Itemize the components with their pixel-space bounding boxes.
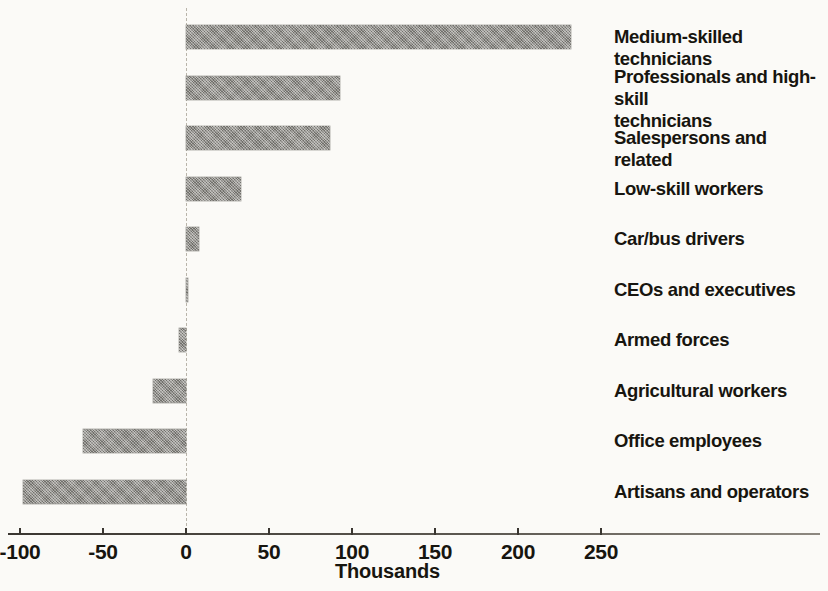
category-label: Medium-skilled technicians (614, 26, 828, 70)
x-axis-tick (268, 528, 270, 535)
bar (186, 25, 571, 49)
bar (153, 379, 186, 403)
bar (83, 429, 186, 453)
bar (186, 76, 340, 100)
x-axis-tick-label: -100 (0, 540, 40, 564)
plot-area (0, 0, 600, 533)
x-axis-tick (600, 528, 602, 535)
category-label-line: Car/bus drivers (614, 228, 828, 250)
category-label: Salespersons and related (614, 127, 828, 171)
x-axis-tick-label: 50 (258, 540, 281, 564)
x-axis-tick-label: 200 (501, 540, 535, 564)
x-axis-line (8, 533, 820, 535)
x-axis-tick-label: 0 (180, 540, 191, 564)
category-label: Low-skill workers (614, 178, 828, 200)
x-axis: -100-50050100150200250 (0, 533, 828, 535)
bar-series (0, 0, 600, 533)
x-axis-tick (351, 528, 353, 535)
x-axis-tick (102, 528, 104, 535)
category-label-line: Salespersons and related (614, 127, 828, 171)
bar-chart: -100-50050100150200250 Thousands Medium-… (0, 0, 828, 591)
category-label: CEOs and executives (614, 279, 828, 301)
category-label-line: Agricultural workers (614, 380, 828, 402)
category-labels: Medium-skilled techniciansProfessionals … (614, 0, 828, 533)
x-axis-tick-label: 250 (584, 540, 618, 564)
x-axis-tick (517, 528, 519, 535)
category-label-line: Medium-skilled technicians (614, 26, 828, 70)
x-axis-tick (185, 528, 187, 535)
category-label-line: Professionals and high-skill (614, 66, 828, 110)
category-label-line: Armed forces (614, 329, 828, 351)
category-label-line: Low-skill workers (614, 178, 828, 200)
category-label: Office employees (614, 430, 828, 452)
x-axis-tick-label: -50 (88, 540, 117, 564)
bar (23, 480, 186, 504)
category-label: Armed forces (614, 329, 828, 351)
bar (179, 328, 186, 352)
category-label: Professionals and high-skilltechnicians (614, 66, 828, 132)
category-label-line: Artisans and operators (614, 481, 828, 503)
category-label-line: Office employees (614, 430, 828, 452)
category-label: Agricultural workers (614, 380, 828, 402)
category-label: Car/bus drivers (614, 228, 828, 250)
x-axis-title: Thousands (335, 560, 440, 583)
category-label-line: CEOs and executives (614, 279, 828, 301)
bar (186, 278, 188, 302)
x-axis-tick (19, 528, 21, 535)
bar (186, 126, 330, 150)
x-axis-tick (434, 528, 436, 535)
category-label: Artisans and operators (614, 481, 828, 503)
bar (186, 227, 199, 251)
bar (186, 177, 241, 201)
